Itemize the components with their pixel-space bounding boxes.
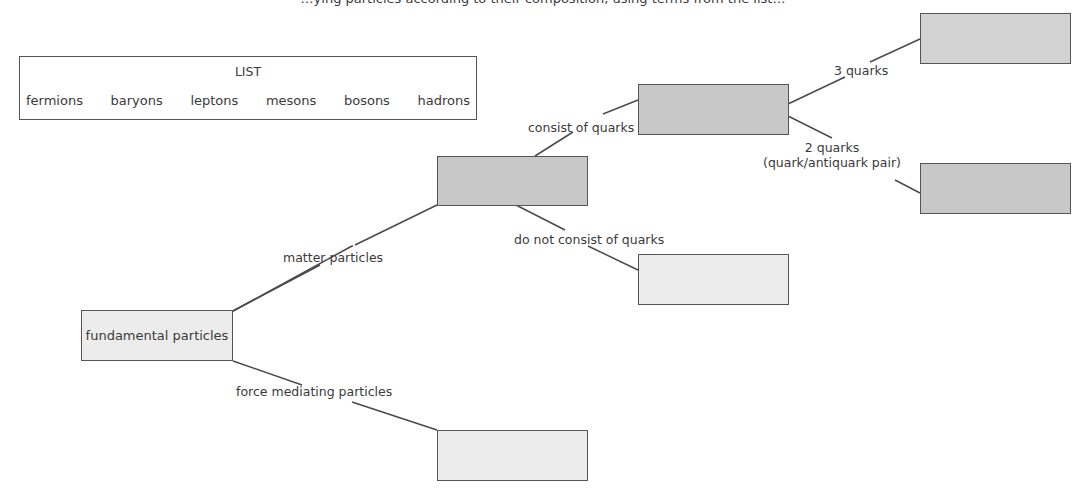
edge-label-consist-of-quarks: consist of quarks (528, 120, 634, 135)
edge-label-two-quarks-line2: (quark/antiquark pair) (747, 155, 917, 170)
node-force-blank[interactable] (437, 430, 588, 481)
node-no-quarks-blank[interactable] (638, 254, 789, 305)
list-item-leptons[interactable]: leptons (190, 93, 238, 108)
node-matter-blank[interactable] (437, 156, 588, 206)
node-fundamental-particles: fundamental particles (81, 310, 233, 361)
edge-label-three-quarks: 3 quarks (834, 63, 888, 78)
edge-label-two-quarks-line1: 2 quarks (747, 140, 917, 155)
list-item-bosons[interactable]: bosons (344, 93, 390, 108)
concept-diagram: …ying particles according to their compo… (0, 0, 1086, 504)
list-item-fermions[interactable]: fermions (26, 93, 83, 108)
node-quarks-blank[interactable] (638, 84, 789, 135)
node-fundamental-particles-label: fundamental particles (86, 328, 229, 343)
term-list-box: LIST fermions baryons leptons mesons bos… (19, 56, 477, 120)
node-three-quarks-blank[interactable] (920, 13, 1071, 64)
list-item-mesons[interactable]: mesons (266, 93, 316, 108)
list-item-hadrons[interactable]: hadrons (418, 93, 470, 108)
node-two-quarks-blank[interactable] (920, 163, 1071, 214)
edge-label-not-consist-of-quarks: do not consist of quarks (514, 232, 664, 247)
cropped-instruction-text: …ying particles according to their compo… (0, 0, 1086, 6)
list-item-baryons[interactable]: baryons (111, 93, 163, 108)
edge-label-force-mediating-particles: force mediating particles (236, 384, 392, 399)
list-title: LIST (20, 64, 476, 79)
list-items: fermions baryons leptons mesons bosons h… (26, 93, 470, 108)
edge-label-two-quarks: 2 quarks (quark/antiquark pair) (747, 140, 917, 170)
edge-label-matter-particles: matter particles (283, 250, 383, 265)
